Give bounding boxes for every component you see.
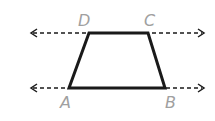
label-d: D <box>78 11 90 30</box>
label-b: B <box>165 93 176 112</box>
label-c: C <box>144 11 156 30</box>
trapezoid-diagram: D C A B <box>0 0 215 121</box>
trapezoid-shape <box>69 33 165 88</box>
label-a: A <box>59 93 71 112</box>
